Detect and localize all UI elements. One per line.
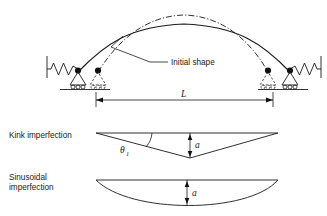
- left-displaced-support: [90, 67, 106, 89]
- sinusoidal-imperfection-figure: [96, 180, 278, 206]
- right-displaced-pin-triangle: [260, 72, 276, 85]
- right-pin-triangle: [282, 72, 298, 85]
- right-roller: [283, 85, 287, 89]
- span-right-arrowhead: [266, 98, 273, 103]
- span-left-arrowhead: [96, 98, 103, 103]
- sinusoidal-imperfection-label-line2: imperfection: [9, 183, 54, 192]
- right-support: [258, 56, 321, 90]
- sine-amplitude-label: a: [192, 188, 197, 198]
- left-displaced-roller: [96, 85, 100, 89]
- initial-shape-leader-line-upper: [111, 36, 123, 47]
- kink-imperfection-label: Kink imperfection: [9, 131, 72, 140]
- left-roller: [76, 85, 80, 89]
- left-support: [47, 56, 110, 90]
- right-displaced-roller: [266, 85, 270, 89]
- left-roller: [71, 85, 75, 89]
- kink-angle-label: θ: [120, 145, 125, 155]
- right-roller: [288, 85, 292, 89]
- left-spring-icon: [47, 63, 78, 75]
- left-displaced-roller: [101, 85, 105, 89]
- right-displaced-support: [260, 67, 276, 89]
- left-roller: [81, 85, 85, 89]
- sinusoidal-imperfection-label-line1: Sinusoidal: [9, 173, 47, 182]
- initial-shape-leader-line: [111, 47, 168, 62]
- imperfection-diagram: Initial shape L Kink imperfection Sinuso…: [0, 0, 327, 216]
- kink-angle-subscript: 1: [126, 150, 129, 157]
- left-displaced-roller: [91, 85, 95, 89]
- arch-assembly: [47, 15, 321, 90]
- sine-amplitude-arrow-top: [185, 181, 190, 187]
- right-displaced-roller: [261, 85, 265, 89]
- span-label: L: [180, 89, 186, 99]
- kink-amplitude-arrow-bottom: [188, 151, 193, 157]
- left-displaced-pin-triangle: [90, 72, 106, 85]
- diagram-canvas: Initial shape L Kink imperfection Sinuso…: [0, 0, 327, 216]
- right-spring-icon: [290, 63, 321, 75]
- kink-angle-arc: [146, 133, 152, 147]
- right-displaced-roller: [271, 85, 275, 89]
- sine-amplitude-arrow-bottom: [185, 198, 190, 204]
- right-roller: [293, 85, 297, 89]
- kink-amplitude-label: a: [195, 140, 200, 150]
- initial-shape-label: Initial shape: [171, 58, 215, 67]
- kink-amplitude-arrow-top: [188, 134, 193, 140]
- left-pin-triangle: [70, 72, 86, 85]
- initial-shape-callout: [111, 36, 168, 62]
